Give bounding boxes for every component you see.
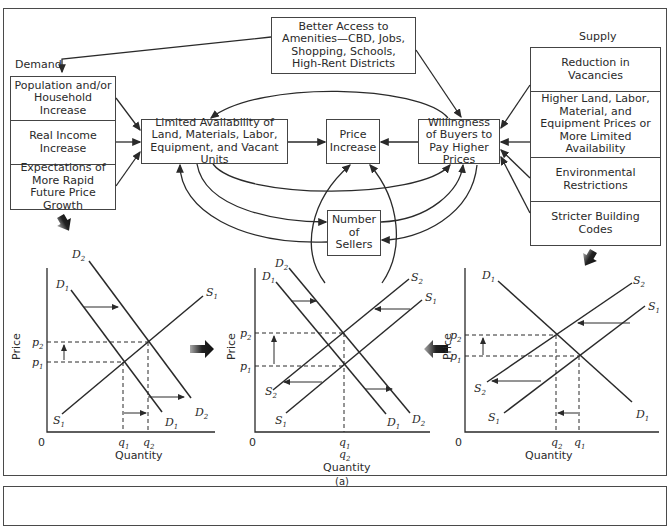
svg-text:p2: p2 bbox=[32, 336, 44, 351]
svg-text:D1: D1 bbox=[481, 269, 495, 284]
svg-text:p1: p1 bbox=[32, 356, 44, 371]
svg-text:D1: D1 bbox=[55, 278, 69, 293]
svg-text:D2: D2 bbox=[411, 413, 426, 428]
svg-text:D2: D2 bbox=[274, 257, 289, 272]
svg-text:S2: S2 bbox=[411, 271, 424, 286]
svg-text:S1: S1 bbox=[275, 414, 287, 429]
svg-text:D1: D1 bbox=[635, 408, 649, 423]
graph-both-shift bbox=[255, 268, 430, 432]
svg-text:S1: S1 bbox=[648, 300, 660, 315]
svg-text:S2: S2 bbox=[633, 274, 646, 289]
svg-text:q1: q1 bbox=[574, 436, 586, 451]
svg-text:S1: S1 bbox=[425, 291, 437, 306]
svg-text:D1: D1 bbox=[386, 416, 400, 431]
svg-text:p1: p1 bbox=[240, 360, 252, 375]
svg-text:0: 0 bbox=[249, 436, 256, 449]
svg-text:S1: S1 bbox=[488, 411, 500, 426]
svg-text:p2: p2 bbox=[240, 327, 252, 342]
quantity-label-2: Quantity bbox=[323, 461, 371, 474]
svg-text:D2: D2 bbox=[71, 248, 86, 263]
down-arrow-supply-icon bbox=[578, 247, 600, 270]
svg-text:S1: S1 bbox=[206, 286, 218, 301]
quantity-label-3: Quantity bbox=[525, 449, 573, 462]
quantity-label-1: Quantity bbox=[115, 449, 163, 462]
price-label-1: Price bbox=[10, 333, 23, 360]
right-arrow-icon bbox=[190, 340, 214, 358]
svg-text:0: 0 bbox=[455, 436, 462, 449]
svg-text:0: 0 bbox=[38, 436, 45, 449]
svg-text:S1: S1 bbox=[53, 414, 65, 429]
figure-caption: (a) bbox=[335, 476, 349, 487]
svg-text:D1: D1 bbox=[164, 416, 178, 431]
price-label-3: Price bbox=[441, 333, 454, 360]
price-label-2: Price bbox=[225, 333, 238, 360]
svg-text:D1: D1 bbox=[261, 270, 275, 285]
down-arrow-demand-icon bbox=[54, 212, 76, 235]
amenities-to-willingness-arrow bbox=[416, 50, 461, 117]
svg-text:S2: S2 bbox=[474, 382, 487, 397]
graph-supply-shift bbox=[465, 268, 659, 432]
svg-text:D2: D2 bbox=[194, 406, 209, 421]
graph-demand-shift bbox=[47, 261, 215, 432]
block-arrows bbox=[54, 212, 601, 358]
amenities-to-demand-arrow bbox=[62, 37, 271, 72]
